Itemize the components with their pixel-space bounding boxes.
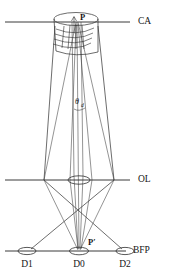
figure-canvas: CA OL BFP P P′ D1 D0 D2 θ d: [0, 0, 170, 273]
label-point-p-prime: P′: [88, 237, 96, 247]
ray-outer-left-upper: [44, 26, 55, 180]
label-detector-d0: D0: [73, 259, 85, 269]
label-point-p: P: [80, 12, 85, 22]
label-detector-d2: D2: [119, 259, 131, 269]
wavefront-arc-3: [54, 38, 92, 43]
ray-axial-center: [77, 22, 79, 249]
label-detector-d1: D1: [21, 259, 33, 269]
wavefront-tick-2: [68, 25, 70, 49]
wavefront-arc-4: [53, 43, 91, 48]
wavefront-arc-2: [55, 33, 93, 38]
label-bfp: BFP: [133, 245, 150, 255]
ray-diffracted-left-lower: [70, 180, 78, 249]
ray-ol-right-to-d0: [80, 180, 114, 250]
ray-ol-left-to-d0: [44, 180, 78, 250]
label-angle-subscript: d: [81, 102, 84, 108]
outer-ray-bundle: [31, 26, 122, 249]
axial-ray-bundle: [70, 22, 92, 249]
plane-lines: [5, 22, 130, 251]
ray-outer-left-lower: [44, 180, 122, 249]
wavefront-tick-1: [62, 26, 64, 48]
wavefront-arc-1: [56, 28, 94, 33]
specimen-top-ellipse: [54, 13, 98, 26]
labels: CA OL BFP P P′ D1 D0 D2 θ d: [21, 12, 151, 269]
ray-outer-right-upper: [98, 26, 114, 180]
ray-p-to-ol-right: [78, 22, 114, 180]
angle-marker: [74, 108, 85, 110]
label-angle-theta: θ: [75, 97, 79, 106]
ray-p-to-ol-left: [44, 22, 76, 180]
label-ol: OL: [138, 174, 151, 184]
wavefront-arcs: [53, 17, 94, 50]
secondary-ray-bundle: [44, 22, 114, 250]
label-ca: CA: [138, 16, 151, 26]
ray-axial-right: [81, 22, 83, 176]
ray-diagram-svg: CA OL BFP P P′ D1 D0 D2 θ d: [0, 0, 170, 273]
angle-arc: [74, 108, 85, 110]
